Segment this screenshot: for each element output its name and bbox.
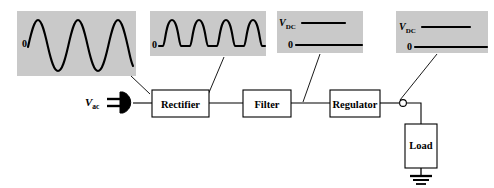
scope-filtered-zero-label: 0 xyxy=(288,39,293,50)
filter-label: Filter xyxy=(254,99,279,110)
rectifier-label: Rectifier xyxy=(161,99,200,110)
regulator-label: Regulator xyxy=(333,99,378,110)
output-terminal-node[interactable] xyxy=(400,100,407,107)
block-rectifier[interactable]: Rectifier xyxy=(152,90,209,117)
scope-rectified-background xyxy=(150,11,266,56)
figure-canvas: 0 0 VDC 0 VDC 0 xyxy=(0,0,494,188)
leader-line-filtered xyxy=(303,54,320,102)
scope-ac-zero-label: 0 xyxy=(22,38,27,49)
scope-regulated-dc: VDC 0 xyxy=(396,11,488,53)
ac-source: Vac xyxy=(85,92,152,113)
scope-regulated-zero-label: 0 xyxy=(407,41,412,52)
block-filter[interactable]: Filter xyxy=(243,90,291,117)
scope-rectified-zero-label: 0 xyxy=(152,39,157,50)
ground-symbol xyxy=(410,168,432,184)
scope-filtered-dc: VDC 0 xyxy=(277,11,363,53)
block-regulator[interactable]: Regulator xyxy=(330,90,380,117)
wire-terminal-to-load xyxy=(407,103,422,124)
block-diagram-svg: 0 0 VDC 0 VDC 0 xyxy=(0,0,494,188)
scope-rectified: 0 xyxy=(150,11,266,56)
block-load[interactable]: Load xyxy=(405,124,437,168)
leader-line-ac xyxy=(131,76,150,94)
load-label: Load xyxy=(409,140,433,151)
ac-source-label: Vac xyxy=(85,96,100,111)
leader-line-regulated xyxy=(400,54,437,100)
plug-body-icon xyxy=(120,92,131,113)
scope-ac-sine: 0 xyxy=(17,11,136,76)
